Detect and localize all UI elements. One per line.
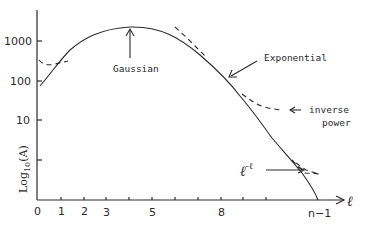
power-label: power: [322, 117, 351, 128]
l-power-label: ℓ-ℓ: [240, 161, 253, 179]
exponential-arrow: [231, 61, 257, 76]
inverse-label: inverse: [309, 104, 349, 115]
x-tick-3: 3: [103, 206, 110, 219]
y-ticks: [37, 41, 42, 160]
chart: 1000 100 10 Log10(A) 0 1 2 3 5 8 n−1 ℓ G…: [0, 0, 366, 225]
x-axis-label: ℓ: [347, 193, 353, 209]
exponential-label: Exponential: [264, 52, 327, 63]
y-tick-100: 100: [10, 75, 31, 88]
x-tick-0: 0: [34, 205, 41, 218]
x-tick-1: 1: [58, 205, 65, 218]
low-l-dashed-fit: [39, 60, 68, 65]
x-tick-n-minus-1: n−1: [308, 207, 331, 220]
exponential-dashed-fit: [175, 27, 205, 56]
y-tick-1000: 1000: [4, 35, 32, 48]
y-tick-10: 10: [16, 114, 30, 127]
inverse-power-dashed-fit: [242, 94, 283, 110]
y-axis-label: Log10(A): [17, 145, 32, 193]
x-tick-2: 2: [81, 205, 88, 218]
x-tick-5: 5: [149, 206, 156, 219]
gaussian-label: Gaussian: [113, 63, 159, 74]
x-tick-8: 8: [218, 206, 225, 219]
l-power-dashed-fit: [292, 160, 320, 174]
axes: [37, 10, 344, 204]
